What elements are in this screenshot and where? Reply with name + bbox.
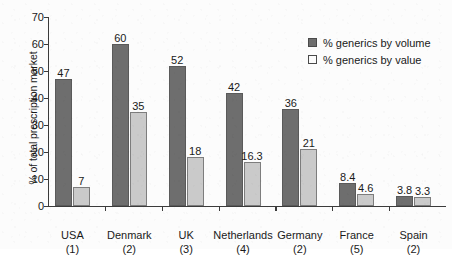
bar-france-volume: 8.4 — [339, 183, 356, 206]
y-tick-label: 70 — [32, 11, 44, 23]
bar-value-label: 8.4 — [340, 171, 355, 183]
bar-value-label: 60 — [114, 32, 126, 44]
legend-label-volume: % generics by volume — [323, 37, 431, 49]
y-tick-mark — [44, 71, 48, 72]
bar-spain-volume: 3.8 — [396, 196, 413, 206]
category-label-france: France(5) — [340, 229, 374, 256]
category-reference: (2) — [107, 243, 152, 256]
category-name: Netherlands — [213, 229, 272, 241]
y-tick-label: 10 — [32, 173, 44, 185]
bar-value-label: 35 — [132, 100, 144, 112]
bar-denmark-value: 35 — [130, 112, 147, 207]
bar-value-label: 36 — [285, 97, 297, 109]
category-label-germany: Germany(2) — [277, 229, 322, 256]
y-tick-mark — [44, 44, 48, 45]
bar-value-label: 7 — [78, 175, 84, 187]
x-tick-mark — [389, 207, 390, 211]
bar-denmark-volume: 60 — [112, 44, 129, 206]
category-reference: (1) — [61, 243, 84, 256]
legend-item-volume: % generics by volume — [308, 34, 431, 51]
y-tick-label: 30 — [32, 119, 44, 131]
bar-value-label: 21 — [303, 137, 315, 149]
bar-netherlands-value: 16.3 — [244, 162, 261, 206]
category-label-netherlands: Netherlands(4) — [213, 229, 272, 256]
bar-value-label: 3.8 — [397, 184, 412, 196]
category-reference: (5) — [340, 243, 374, 256]
bar-value-label: 47 — [57, 67, 69, 79]
category-reference: (2) — [277, 243, 322, 256]
category-label-spain: Spain(2) — [399, 229, 427, 256]
legend-item-value: % generics by value — [308, 51, 431, 68]
legend-swatch-value-icon — [308, 55, 317, 64]
bar-netherlands-volume: 42 — [226, 93, 243, 206]
y-tick-mark — [44, 179, 48, 180]
y-tick-label: 0 — [38, 200, 44, 212]
bar-germany-value: 21 — [300, 149, 317, 206]
bar-germany-volume: 36 — [282, 109, 299, 206]
legend-label-value: % generics by value — [323, 54, 421, 66]
bar-uk-value: 18 — [187, 157, 204, 206]
y-tick-label: 40 — [32, 92, 44, 104]
bar-uk-volume: 52 — [169, 66, 186, 206]
y-tick-label: 60 — [32, 38, 44, 50]
category-name: France — [340, 229, 374, 241]
category-name: Spain — [399, 229, 427, 241]
legend-swatch-volume-icon — [308, 38, 317, 47]
chart-legend: % generics by volume % generics by value — [308, 34, 431, 68]
x-axis-line — [48, 206, 446, 207]
category-name: UK — [179, 229, 194, 241]
bar-france-value: 4.6 — [357, 194, 374, 206]
bar-value-label: 52 — [171, 54, 183, 66]
bar-usa-volume: 47 — [55, 79, 72, 206]
category-label-usa: USA(1) — [61, 229, 84, 256]
category-name: USA — [61, 229, 84, 241]
category-reference: (2) — [399, 243, 427, 256]
y-tick-mark — [44, 152, 48, 153]
bar-value-label: 4.6 — [358, 182, 373, 194]
bar-spain-value: 3.3 — [414, 197, 431, 206]
y-tick-mark — [44, 206, 48, 207]
y-axis-line — [48, 17, 49, 206]
x-tick-mark — [219, 207, 220, 211]
bar-value-label: 3.3 — [415, 185, 430, 197]
y-tick-mark — [44, 98, 48, 99]
x-tick-mark — [162, 207, 163, 211]
category-name: Germany — [277, 229, 322, 241]
y-tick-mark — [44, 17, 48, 18]
x-tick-mark — [332, 207, 333, 211]
bar-value-label: 16.3 — [241, 150, 262, 162]
y-tick-label: 50 — [32, 65, 44, 77]
bar-value-label: 42 — [228, 81, 240, 93]
x-tick-mark — [105, 207, 106, 211]
x-tick-mark — [275, 207, 276, 211]
bar-usa-value: 7 — [73, 187, 90, 206]
y-tick-mark — [44, 125, 48, 126]
category-reference: (3) — [179, 243, 194, 256]
bar-value-label: 18 — [189, 145, 201, 157]
y-tick-label: 20 — [32, 146, 44, 158]
category-label-denmark: Denmark(2) — [107, 229, 152, 256]
category-label-uk: UK(3) — [179, 229, 194, 256]
category-reference: (4) — [213, 243, 272, 256]
category-name: Denmark — [107, 229, 152, 241]
